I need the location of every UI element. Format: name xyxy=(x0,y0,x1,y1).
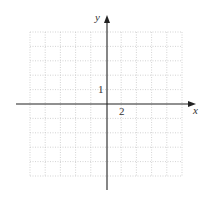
coordinate-plane: x y 2 1 xyxy=(0,0,210,201)
y-axis-label: y xyxy=(94,11,100,23)
y-axis xyxy=(104,15,110,190)
y-tick-label: 1 xyxy=(98,83,104,95)
y-arrow-icon xyxy=(104,15,110,23)
x-axis-label: x xyxy=(192,104,198,116)
x-tick-label: 2 xyxy=(119,105,125,117)
x-axis xyxy=(16,101,196,107)
